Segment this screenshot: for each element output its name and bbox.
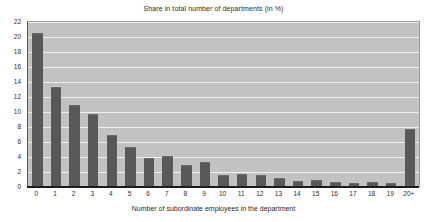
bar xyxy=(237,174,247,188)
y-axis-tick-label: 12 xyxy=(14,93,21,100)
x-axis-tick-label: 4 xyxy=(102,190,121,202)
bar-slot xyxy=(233,22,252,187)
bar-slot xyxy=(401,22,420,187)
bar xyxy=(107,135,117,187)
x-axis-tick-label: 16 xyxy=(325,190,344,202)
bar xyxy=(69,105,79,188)
bar-slot xyxy=(196,22,215,187)
bar xyxy=(181,165,191,187)
y-axis-tick-label: 14 xyxy=(14,78,21,85)
x-axis-tick-label: 12 xyxy=(251,190,270,202)
bar xyxy=(88,114,98,188)
y-axis-tick-label: 0 xyxy=(17,183,21,190)
bar-slot xyxy=(140,22,159,187)
y-axis-tick-label: 4 xyxy=(17,153,21,160)
x-axis-tick-label: 11 xyxy=(232,190,251,202)
y-axis-tick-label: 2 xyxy=(17,168,21,175)
bar-slot xyxy=(214,22,233,187)
x-axis-tick-label: 13 xyxy=(269,190,288,202)
x-axis: 01234567891011121314151617181920+ xyxy=(27,190,418,202)
bar-slot xyxy=(103,22,122,187)
bar-slot xyxy=(326,22,345,187)
bars-layer xyxy=(28,22,419,187)
x-axis-tick-label: 18 xyxy=(362,190,381,202)
y-axis-tick-label: 20 xyxy=(14,33,21,40)
x-axis-tick-label: 6 xyxy=(139,190,158,202)
bar-slot xyxy=(84,22,103,187)
bar xyxy=(32,33,42,187)
x-axis-tick-label: 20+ xyxy=(400,190,419,202)
y-axis-tick-label: 6 xyxy=(17,138,21,145)
y-axis-tick-label: 18 xyxy=(14,48,21,55)
x-axis-tick-label: 2 xyxy=(64,190,83,202)
bar-slot xyxy=(65,22,84,187)
x-axis-tick-label: 9 xyxy=(195,190,214,202)
x-axis-line xyxy=(27,186,419,188)
bar-slot xyxy=(47,22,66,187)
y-axis-tick-label: 8 xyxy=(17,123,21,130)
x-axis-tick-label: 8 xyxy=(176,190,195,202)
bar xyxy=(51,87,61,188)
plot-area xyxy=(27,21,420,187)
y-axis-tick-label: 22 xyxy=(14,18,21,25)
y-axis-tick-label: 16 xyxy=(14,63,21,70)
x-axis-tick-label: 17 xyxy=(344,190,363,202)
x-axis-tick-label: 14 xyxy=(288,190,307,202)
bar-slot xyxy=(121,22,140,187)
bar xyxy=(125,147,135,187)
bar-slot xyxy=(382,22,401,187)
x-axis-tick-label: 7 xyxy=(157,190,176,202)
x-axis-tick-label: 1 xyxy=(46,190,65,202)
y-axis: 0246810121416182022 xyxy=(0,21,24,186)
x-axis-tick-label: 3 xyxy=(83,190,102,202)
bar-slot xyxy=(158,22,177,187)
bar xyxy=(200,162,210,187)
x-axis-tick-label: 10 xyxy=(213,190,232,202)
x-axis-tick-label: 19 xyxy=(381,190,400,202)
x-axis-title: Number of subordinate employees in the d… xyxy=(0,205,427,212)
x-axis-tick-label: 15 xyxy=(306,190,325,202)
bar xyxy=(162,156,172,187)
x-axis-tick-label: 5 xyxy=(120,190,139,202)
bar-slot xyxy=(177,22,196,187)
bar-slot xyxy=(252,22,271,187)
x-axis-tick-label: 0 xyxy=(27,190,46,202)
bar-slot xyxy=(363,22,382,187)
bar xyxy=(405,129,415,187)
bar-slot xyxy=(270,22,289,187)
bar-slot xyxy=(289,22,308,187)
bar xyxy=(144,158,154,187)
bar-slot xyxy=(345,22,364,187)
chart-title: Share in total number of departments (in… xyxy=(0,5,427,12)
y-axis-tick-label: 10 xyxy=(14,108,21,115)
bar-slot xyxy=(28,22,47,187)
bar-slot xyxy=(307,22,326,187)
bar-chart: Share in total number of departments (in… xyxy=(0,0,427,222)
